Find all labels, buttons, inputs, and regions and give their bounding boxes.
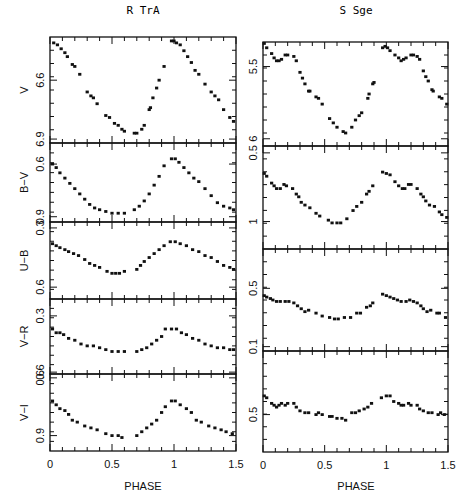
data-point: [185, 333, 188, 336]
y-tick-label: 6: [247, 136, 259, 142]
y-axis-label: V−I: [18, 404, 30, 421]
data-point: [162, 164, 165, 167]
panel-v-i: 0.60.9V−I: [18, 370, 236, 451]
data-point: [162, 244, 165, 247]
panel-row-0: 5.56: [247, 42, 448, 146]
panel-v-r: 0.30.6V−R: [18, 299, 236, 380]
y-tick-label: 0.3: [34, 220, 46, 235]
data-point: [381, 293, 384, 296]
data-point: [190, 61, 193, 64]
data-point: [432, 90, 435, 93]
data-point: [210, 344, 213, 347]
data-point: [263, 42, 266, 45]
data-point: [179, 403, 182, 406]
data-point: [438, 211, 441, 214]
data-point: [386, 46, 389, 49]
data-point: [86, 91, 89, 94]
data-point: [303, 411, 306, 414]
x-tick-label: 0: [47, 458, 53, 470]
y-tick-label: 1: [247, 218, 259, 224]
data-point: [58, 171, 61, 174]
panel-row-1: 0.51: [247, 145, 448, 249]
data-point: [140, 430, 143, 433]
data-point: [58, 331, 61, 334]
data-point: [385, 294, 388, 297]
data-point: [89, 427, 92, 430]
data-point: [298, 409, 301, 412]
data-point: [443, 413, 446, 416]
panel-frame: [263, 42, 448, 146]
x-tick-label: 1: [383, 459, 389, 471]
panel-frame: [263, 146, 448, 249]
data-point: [317, 411, 320, 414]
data-point: [139, 264, 142, 267]
data-point: [162, 65, 165, 68]
data-point: [51, 328, 54, 331]
data-point: [265, 396, 268, 399]
data-point: [445, 216, 448, 219]
data-point: [203, 254, 206, 257]
data-point: [73, 65, 76, 68]
data-point: [68, 182, 71, 185]
panel-frame: [50, 374, 236, 451]
x-tick-label: 0: [260, 459, 266, 471]
data-point: [321, 103, 324, 106]
data-point: [418, 58, 421, 61]
y-tick-label: 0.1: [247, 339, 259, 354]
data-point: [343, 316, 346, 319]
data-point: [427, 80, 430, 83]
data-point: [321, 413, 324, 416]
x-tick-label: 1.5: [440, 459, 455, 471]
data-point: [76, 421, 79, 424]
data-point: [123, 350, 126, 353]
data-point: [63, 177, 66, 180]
data-point: [150, 343, 153, 346]
data-point: [86, 344, 89, 347]
data-point: [232, 348, 235, 351]
panel-frame: [50, 143, 236, 222]
data-point: [416, 55, 419, 58]
data-point: [365, 306, 368, 309]
data-point: [228, 266, 231, 269]
data-point: [263, 172, 266, 175]
data-point: [96, 102, 99, 105]
y-tick-label: 0.6: [34, 156, 46, 171]
data-point: [292, 55, 295, 58]
data-point: [203, 343, 206, 346]
data-point: [143, 260, 146, 263]
y-tick-label: 5.5: [247, 59, 259, 74]
data-point: [52, 41, 55, 44]
data-point: [351, 209, 354, 212]
data-point: [71, 419, 74, 422]
data-point: [83, 258, 86, 261]
data-point: [145, 427, 148, 430]
data-point: [295, 406, 298, 409]
x-tick-label: 0.5: [317, 459, 332, 471]
data-point: [187, 171, 190, 174]
data-point: [388, 296, 391, 299]
data-point: [117, 212, 120, 215]
data-point: [123, 212, 126, 215]
data-point: [438, 312, 441, 315]
data-point: [135, 268, 138, 271]
data-point: [317, 97, 320, 100]
data-point: [365, 193, 368, 196]
data-point: [402, 404, 405, 407]
x-tick-label: 0.5: [104, 458, 119, 470]
data-point: [118, 272, 121, 275]
data-point: [360, 111, 363, 114]
data-point: [366, 406, 369, 409]
data-point: [280, 402, 283, 405]
data-point: [335, 126, 338, 129]
data-point: [303, 310, 306, 313]
panel-frame: [263, 249, 448, 351]
data-point: [318, 215, 321, 218]
data-point: [396, 299, 399, 302]
data-point: [110, 434, 113, 437]
data-point: [337, 318, 340, 321]
x-tick-label: 1: [171, 458, 177, 470]
data-point: [430, 411, 433, 414]
data-point: [73, 339, 76, 342]
data-point: [301, 77, 304, 80]
data-point: [354, 411, 357, 414]
